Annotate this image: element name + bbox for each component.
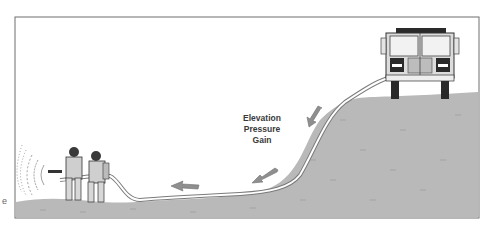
label-line-3: Gain bbox=[232, 135, 292, 146]
label-line-2: Pressure bbox=[232, 124, 292, 135]
elevation-pressure-gain-label: Elevation Pressure Gain bbox=[232, 113, 292, 146]
cropped-caption-fragment: e bbox=[2, 196, 7, 206]
diagram-canvas: Elevation Pressure Gain e bbox=[0, 0, 492, 231]
label-line-1: Elevation bbox=[232, 113, 292, 124]
